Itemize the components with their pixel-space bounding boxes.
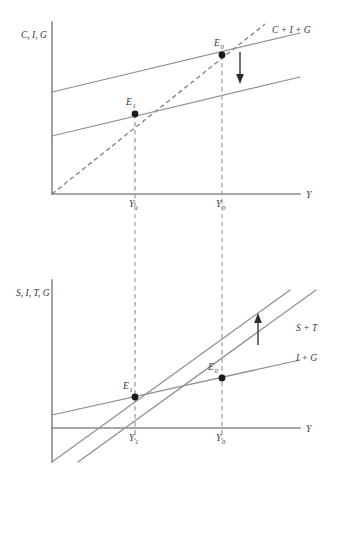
top-tick-label-y0: Y 0 [216, 199, 226, 211]
bottom-panel: S, I, T, G Y S + T I + G E 1 E 0 Y 1 Y 0 [16, 280, 318, 462]
top-x-axis-label: Y [306, 190, 313, 200]
saving-plus-taxes-shifted-line [52, 290, 290, 462]
bottom-equilibrium-dot-e0 [219, 375, 226, 382]
investment-plus-government-line [52, 360, 300, 415]
top-tick-label-y0-subscript: 0 [222, 204, 226, 211]
bottom-tick-label-y1-subscript: 1 [135, 438, 138, 445]
bottom-point-label-e1: E 1 [122, 381, 133, 393]
top-tick-label-y1: Y 1 [129, 199, 138, 211]
bottom-tick-label-y1: Y 1 [129, 433, 138, 445]
diagram-canvas: C, I, G Y C + I + G E 0 E 1 Y 1 Y 0 [0, 0, 340, 534]
top-point-label-e0-letter: E [213, 38, 220, 48]
top-panel: C, I, G Y C + I + G E 0 E 1 Y 1 Y 0 [21, 22, 313, 211]
top-equilibrium-dot-e0 [219, 52, 226, 59]
top-y-axis-label: C, I, G [21, 30, 47, 40]
top-point-label-e1-subscript: 1 [133, 102, 136, 109]
bottom-tick-label-y0-subscript: 0 [222, 438, 226, 445]
panel-link-guides [135, 206, 222, 294]
bottom-x-axis-label: Y [306, 424, 313, 434]
top-point-label-e0: E 0 [213, 38, 225, 50]
top-point-label-e0-subscript: 0 [221, 43, 225, 50]
bottom-point-label-e0: E 0 [207, 362, 219, 374]
bottom-point-label-e1-letter: E [122, 381, 129, 391]
bottom-point-label-e0-subscript: 0 [215, 367, 219, 374]
bottom-equilibrium-dot-e1 [132, 394, 139, 401]
bottom-y-axis-label: S, I, T, G [16, 288, 50, 298]
top-point-label-e1: E 1 [125, 97, 136, 109]
bottom-point-label-e0-letter: E [207, 362, 214, 372]
bottom-tick-label-y0: Y 0 [216, 433, 226, 445]
bottom-point-label-e1-subscript: 1 [130, 386, 133, 393]
aggregate-expenditure-initial-line [52, 33, 300, 92]
economics-diagram-figure: C, I, G Y C + I + G E 0 E 1 Y 1 Y 0 [0, 0, 340, 534]
top-equilibrium-dot-e1 [132, 111, 139, 118]
top-curve-label-cig: C + I + G [272, 25, 311, 35]
bottom-curve-label-ig: I + G [295, 353, 317, 363]
top-point-label-e1-letter: E [125, 97, 132, 107]
bottom-curve-label-st: S + T [296, 323, 318, 333]
saving-plus-taxes-initial-line [78, 290, 316, 462]
downward-shift-arrow-head [236, 74, 244, 84]
aggregate-expenditure-shifted-line [52, 77, 300, 136]
